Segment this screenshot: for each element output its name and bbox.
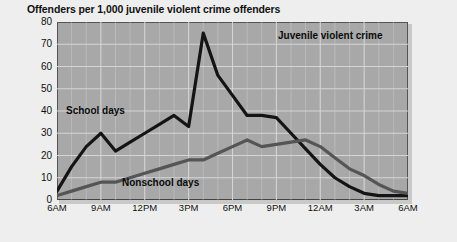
y-tick-label: 80 <box>6 16 52 27</box>
x-tick-label: 6PM <box>223 202 243 213</box>
y-tick-label: 60 <box>6 61 52 72</box>
chart-series-label: Juvenile violent crime <box>278 30 383 41</box>
y-tick-label: 30 <box>6 127 52 138</box>
y-tick-label: 70 <box>6 38 52 49</box>
y-tick-label: 10 <box>6 172 52 183</box>
nonschool-days-label: Nonschool days <box>122 177 199 188</box>
x-axis-labels: 6AM9AM12PM3PM6PM9PM12AM3AM6AM <box>57 202 408 220</box>
school-days-label: School days <box>66 105 125 116</box>
x-tick-label: 9PM <box>267 202 287 213</box>
x-tick-label: 12AM <box>308 202 333 213</box>
page-title: Offenders per 1,000 juvenile violent cri… <box>27 3 280 15</box>
y-tick-label: 0 <box>6 194 52 205</box>
x-tick-label: 3AM <box>354 202 374 213</box>
x-tick-label: 3PM <box>179 202 199 213</box>
x-tick-label: 12PM <box>132 202 157 213</box>
y-tick-label: 40 <box>6 105 52 116</box>
x-tick-label: 9AM <box>91 202 111 213</box>
y-tick-label: 50 <box>6 83 52 94</box>
y-tick-label: 20 <box>6 150 52 161</box>
x-tick-label: 6AM <box>398 202 418 213</box>
x-tick-label: 6AM <box>47 202 67 213</box>
chart-figure: Offenders per 1,000 juvenile violent cri… <box>0 0 457 242</box>
y-axis-labels: 01020304050607080 <box>0 22 52 200</box>
